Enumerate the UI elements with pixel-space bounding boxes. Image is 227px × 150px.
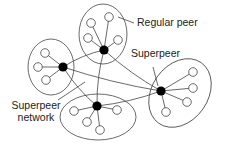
regular-peer-node <box>162 108 171 117</box>
regular-peer-node <box>105 13 114 22</box>
regular-peer-node <box>189 84 198 93</box>
regular-peer-node <box>42 76 51 85</box>
regular-peer-node <box>87 19 96 28</box>
regular-peer-node <box>183 98 192 107</box>
regular-peer-node <box>84 34 93 43</box>
regular-peer-node <box>113 106 122 115</box>
superpeer-network-label-line1: Superpeer <box>8 99 64 111</box>
superpeer-node-top <box>99 45 108 54</box>
regular-peer-node <box>114 36 123 45</box>
superpeer-label: Superpeer <box>131 47 180 59</box>
superpeer-node-right <box>156 86 165 95</box>
superpeer-link-top-left <box>63 50 104 67</box>
regular-peer-node <box>83 118 92 127</box>
regular-peer-label: Regular peer <box>137 16 198 28</box>
superpeer-node-bottom <box>92 101 101 110</box>
regular-peer-node <box>96 126 105 135</box>
superpeer-link-left-bottom <box>63 67 97 106</box>
superpeer-network-label: Superpeer network <box>8 99 64 123</box>
superpeer-node-left <box>58 62 67 71</box>
superpeer-network-label-line2: network <box>8 111 64 123</box>
regular-peer-node <box>189 68 198 77</box>
regular-peer-node <box>41 49 50 58</box>
regular-peer-node <box>34 63 43 72</box>
regular-peer-pointer <box>118 17 134 23</box>
cluster-top-spoke <box>104 17 109 50</box>
cluster-right-boundary <box>136 47 224 140</box>
regular-peer-node <box>70 107 79 116</box>
